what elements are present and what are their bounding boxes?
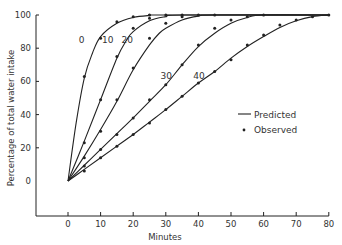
series-label: 0 <box>79 35 85 45</box>
observed-point <box>197 82 200 85</box>
series-label: 30 <box>161 71 173 81</box>
observed-point <box>181 15 184 18</box>
observed-point <box>99 156 102 159</box>
observed-point <box>115 55 118 58</box>
x-tick-label: 0 <box>65 219 70 229</box>
series-label: 20 <box>121 35 133 45</box>
observed-point <box>148 37 151 40</box>
observed-point <box>197 14 200 17</box>
x-tick-label: 70 <box>291 219 302 229</box>
series-label: 10 <box>102 35 114 45</box>
legend: Predicted Observed <box>238 110 297 135</box>
legend-observed-label: Observed <box>254 125 297 135</box>
observed-point <box>132 67 135 70</box>
observed-point <box>262 33 265 36</box>
series-label: 40 <box>193 71 205 81</box>
observed-point <box>148 14 151 17</box>
observed-point <box>99 148 102 151</box>
x-axis-label: Minutes <box>148 232 182 242</box>
observed-point <box>213 27 216 30</box>
x-tick-label: 20 <box>128 219 139 229</box>
y-tick-label: 0 <box>26 176 31 186</box>
y-axis-label: Percentage of total water intake <box>6 50 16 187</box>
observed-point <box>262 14 265 17</box>
observed-point <box>246 43 249 46</box>
observed-point <box>83 141 86 144</box>
legend-dot-icon <box>243 129 246 132</box>
observed-point <box>99 130 102 133</box>
x-tick-label: 60 <box>258 219 269 229</box>
observed-point <box>164 83 167 86</box>
observed-point <box>181 95 184 98</box>
observed-point <box>83 75 86 78</box>
observed-point <box>230 58 233 61</box>
observed-point <box>164 108 167 111</box>
legend-predicted-label: Predicted <box>254 110 296 120</box>
observed-point <box>115 20 118 23</box>
plot-area: 010203040 <box>68 14 330 182</box>
observed-point <box>197 43 200 46</box>
observed-point <box>148 17 151 20</box>
observed-point <box>132 133 135 136</box>
x-tick-label: 40 <box>193 219 204 229</box>
series-10: 10 <box>68 14 329 182</box>
y-tick-label: 80 <box>20 43 31 53</box>
observed-point <box>115 145 118 148</box>
observed-point <box>132 116 135 119</box>
x-tick-label: 80 <box>323 219 334 229</box>
observed-point <box>164 14 167 17</box>
observed-point <box>246 15 249 18</box>
observed-point <box>148 121 151 124</box>
observed-point <box>181 63 184 66</box>
y-tick-label: 20 <box>20 143 31 153</box>
observed-point <box>327 14 330 17</box>
observed-point <box>99 98 102 101</box>
observed-point <box>311 15 314 18</box>
observed-point <box>83 170 86 173</box>
observed-point <box>164 22 167 25</box>
observed-point <box>83 165 86 168</box>
observed-point <box>132 15 135 18</box>
chart: 02040608010001020304050607080 010203040 … <box>0 0 342 245</box>
observed-point <box>148 98 151 101</box>
observed-point <box>213 70 216 73</box>
observed-point <box>115 133 118 136</box>
observed-point <box>278 23 281 26</box>
x-tick-label: 10 <box>95 219 106 229</box>
x-tick-label: 50 <box>226 219 237 229</box>
observed-point <box>83 156 86 159</box>
observed-point <box>230 18 233 21</box>
observed-point <box>132 27 135 30</box>
y-tick-label: 40 <box>20 110 31 120</box>
x-tick-label: 30 <box>160 219 171 229</box>
observed-point <box>213 14 216 17</box>
y-tick-label: 100 <box>15 10 31 20</box>
observed-point <box>295 18 298 21</box>
y-tick-label: 60 <box>20 76 31 86</box>
observed-point <box>115 98 118 101</box>
